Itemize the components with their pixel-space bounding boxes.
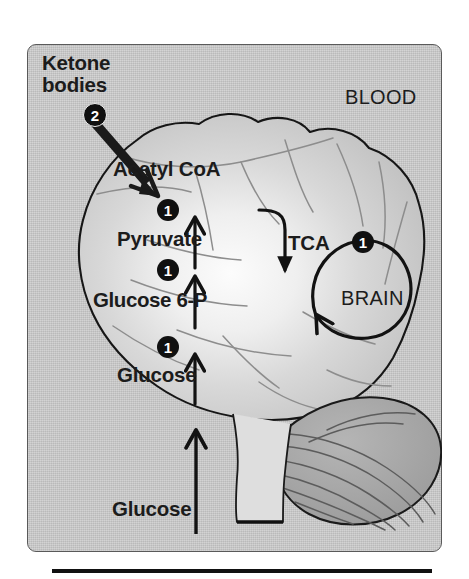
label-blood-glucose: Glucose: [112, 498, 192, 520]
brainstem-shape: [233, 414, 291, 522]
figure-root: Ketone bodies Acetyl CoA Pyruvate Glucos…: [0, 0, 469, 579]
badge-step-glucose-to-g6p: 1: [157, 336, 179, 358]
label-ketone-bodies-line2: bodies: [42, 74, 110, 96]
figure-bottom-rule: [52, 569, 432, 573]
label-pyruvate: Pyruvate: [117, 228, 202, 250]
badge-step-g6p-to-pyruvate: 1: [157, 259, 179, 281]
label-glucose-6-phosphate: Glucose 6-P: [93, 289, 207, 311]
badge-step-pyruvate-to-acetyl-coa: 1: [157, 199, 179, 221]
badge-step-ketone-bodies-to-acetyl-coa: 2: [83, 103, 107, 127]
badge-step-tca-cycle: 1: [352, 231, 374, 253]
label-acetyl-coa: Acetyl CoA: [113, 158, 220, 180]
label-ketone-bodies: Ketone bodies: [42, 52, 110, 95]
label-blood-compartment: BLOOD: [345, 87, 417, 108]
label-tca-cycle: TCA: [288, 232, 330, 254]
label-brain-glucose: Glucose: [117, 364, 197, 386]
label-brain-compartment: BRAIN: [341, 288, 404, 309]
label-ketone-bodies-line1: Ketone: [42, 52, 110, 74]
